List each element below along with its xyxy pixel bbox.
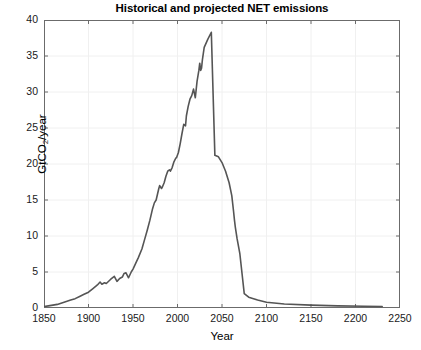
y-tick-label: 5	[2, 265, 38, 277]
x-tick-label: 2000	[153, 312, 203, 324]
emissions-line	[44, 32, 382, 306]
x-tick-label: 2250	[375, 312, 421, 324]
x-axis-title: Year	[44, 330, 400, 342]
plot-area	[44, 20, 400, 308]
y-tick-label: 25	[2, 121, 38, 133]
x-tick-label: 2050	[197, 312, 247, 324]
x-tick-label: 2200	[331, 312, 381, 324]
x-tick-label: 1900	[64, 312, 114, 324]
chart-title: Historical and projected NET emissions	[44, 2, 400, 14]
chart-figure: Historical and projected NET emissions 0…	[0, 0, 421, 350]
y-tick-label: 40	[2, 13, 38, 25]
x-tick-label: 1850	[19, 312, 69, 324]
x-tick-label: 2150	[286, 312, 336, 324]
y-axis-title: GtCO2/year	[36, 89, 50, 199]
y-tick-label: 20	[2, 157, 38, 169]
y-tick-label: 35	[2, 49, 38, 61]
chart-plot-svg	[44, 20, 400, 308]
x-tick-label: 2100	[242, 312, 292, 324]
y-tick-label: 30	[2, 85, 38, 97]
y-tick-label: 10	[2, 229, 38, 241]
x-tick-label: 1950	[108, 312, 158, 324]
y-tick-label: 15	[2, 193, 38, 205]
